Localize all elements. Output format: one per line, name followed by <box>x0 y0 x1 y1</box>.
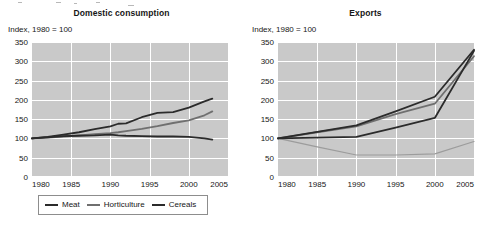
legend-swatch-line-icon <box>152 204 165 206</box>
x-axis-tick-label: 2000 <box>426 180 444 189</box>
legend-row: MeatHorticultureCereals <box>45 199 201 211</box>
y-axis-tick-label: 200 <box>15 95 28 104</box>
y-axis-tick-label: 350 <box>261 38 274 47</box>
legend-label: Cereals <box>169 201 197 209</box>
legend-item: Meat <box>45 201 80 209</box>
legend-item: Cereals <box>152 201 197 209</box>
legend-label: Meat <box>62 201 80 209</box>
y-axis-tick-label: 150 <box>15 115 28 124</box>
y-axis-tick-label: 50 <box>265 153 274 162</box>
plot-area: 0501001502002503003501980198519901995200… <box>32 42 228 177</box>
x-axis-tick-label: 2000 <box>180 180 198 189</box>
y-axis-tick-label: 150 <box>261 115 274 124</box>
y-axis-tick-label: 300 <box>15 57 28 66</box>
chart-title: Domestic consumption <box>0 8 243 18</box>
y-axis-tick-label: 0 <box>270 173 274 182</box>
y-axis-tick-label: 250 <box>261 76 274 85</box>
legend-swatch-line-icon <box>87 204 100 206</box>
y-axis-tick-label: 300 <box>261 57 274 66</box>
x-axis-tick-label: 2005 <box>210 180 228 189</box>
legend-label: Horticulture <box>104 201 145 209</box>
y-axis-tick-label: 250 <box>15 76 28 85</box>
legend-swatch-line-icon <box>45 204 58 206</box>
x-axis-tick-label: 1990 <box>347 180 365 189</box>
x-axis-tick-label: 1985 <box>308 180 326 189</box>
axis-note: Index, 1980 = 100 <box>8 25 72 34</box>
series-line-meat <box>278 50 474 139</box>
x-axis-tick-label: 1995 <box>387 180 405 189</box>
chart-panel-domestic-consumption: Domestic consumption Index, 1980 = 100 0… <box>0 0 243 235</box>
x-axis-tick-label: 1990 <box>101 180 119 189</box>
axis-note: Index, 1980 = 100 <box>252 25 316 34</box>
y-axis-tick-label: 50 <box>19 153 28 162</box>
gridline-vertical <box>228 42 229 177</box>
series-lines <box>32 42 228 177</box>
x-axis-tick-label: 1995 <box>141 180 159 189</box>
y-axis-tick-label: 350 <box>15 38 28 47</box>
series-line-traditional-exports <box>278 138 474 155</box>
figure-root: Domestic consumption Index, 1980 = 100 0… <box>0 0 487 235</box>
x-axis-tick-label: 1985 <box>62 180 80 189</box>
chart-panel-exports: Exports Index, 1980 = 100 05010015020025… <box>244 0 487 235</box>
series-lines <box>278 42 474 177</box>
x-axis-tick-label: 1980 <box>32 180 50 189</box>
x-axis-tick-label: 1980 <box>278 180 296 189</box>
chart-legend: MeatHorticultureCereals <box>38 195 208 215</box>
x-axis-tick-label: 2005 <box>456 180 474 189</box>
plot-area: 0501001502002503003501980198519901995200… <box>278 42 474 177</box>
series-line-oilseeds <box>278 51 474 139</box>
y-axis-tick-label: 100 <box>261 134 274 143</box>
y-axis-tick-label: 100 <box>15 134 28 143</box>
y-axis-tick-label: 0 <box>24 173 28 182</box>
gridline-vertical <box>474 42 475 177</box>
legend-item: Horticulture <box>87 201 145 209</box>
series-line-horticulture <box>278 56 474 138</box>
y-axis-tick-label: 200 <box>261 95 274 104</box>
chart-title: Exports <box>244 8 487 18</box>
